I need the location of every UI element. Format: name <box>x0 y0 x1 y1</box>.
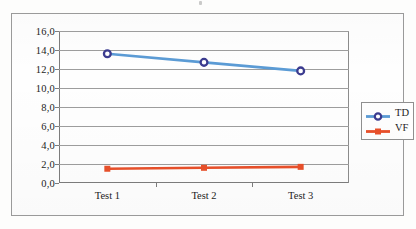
data-point-td-1 <box>104 50 111 57</box>
chart-screenshot: 0,02,04,06,08,010,012,014,016,0 Test 1Te… <box>0 0 416 229</box>
series-layer <box>59 31 349 183</box>
y-axis-tick-label: 10,0 <box>36 83 55 94</box>
legend-item-vf: VF <box>365 121 409 136</box>
legend-item-td: TD <box>365 106 409 121</box>
x-axis-tick <box>252 183 253 187</box>
scan-artifact-speck <box>199 1 202 5</box>
x-axis-labels: Test 1Test 2Test 3 <box>59 190 349 208</box>
y-axis-tick-label: 0,0 <box>41 178 55 189</box>
y-axis-tick-label: 16,0 <box>36 26 55 37</box>
data-point-vf-3 <box>298 164 304 170</box>
data-point-vf-2 <box>201 165 207 171</box>
y-axis-labels: 0,02,04,06,08,010,012,014,016,0 <box>12 31 55 183</box>
y-axis-tick-label: 8,0 <box>41 102 55 113</box>
data-point-td-3 <box>297 68 304 75</box>
x-axis-tick-label: Test 3 <box>288 190 313 201</box>
y-axis-tick-label: 12,0 <box>36 64 55 75</box>
chart-legend: TD VF <box>361 102 414 140</box>
legend-label-vf: VF <box>395 123 408 134</box>
legend-key-td-icon <box>365 108 391 119</box>
data-point-td-2 <box>201 59 208 66</box>
x-axis-tick-label: Test 2 <box>191 190 216 201</box>
chart-frame: 0,02,04,06,08,010,012,014,016,0 Test 1Te… <box>11 13 404 216</box>
y-axis-tick-label: 6,0 <box>41 121 55 132</box>
y-axis-tick-label: 14,0 <box>36 45 55 56</box>
y-axis-tick-label: 2,0 <box>41 159 55 170</box>
y-axis-tick <box>55 183 59 184</box>
x-axis-tick <box>156 183 157 187</box>
y-axis-tick-label: 4,0 <box>41 140 55 151</box>
data-point-vf-1 <box>104 166 110 172</box>
legend-key-vf-icon <box>365 123 391 134</box>
legend-label-td: TD <box>395 108 409 119</box>
x-axis-tick-label: Test 1 <box>95 190 120 201</box>
